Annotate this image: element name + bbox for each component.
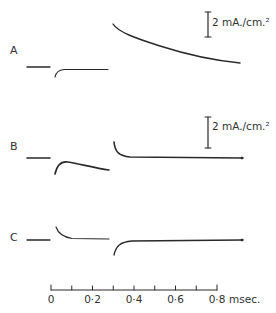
axis-tick-label: 0·8 (209, 293, 226, 305)
axis-tick-label: 0·4 (126, 293, 143, 305)
trace-c (27, 227, 243, 255)
time-axis (51, 285, 217, 290)
scale-bar-b-label: 2 mA./cm.² (212, 120, 270, 132)
axis-tick-label: 0·2 (84, 293, 101, 305)
axis-tick-label: 0 (48, 293, 55, 305)
panel-label-c: C (10, 231, 18, 244)
panel-label-b: B (10, 140, 18, 153)
panel-label-a: A (10, 44, 18, 57)
trace-b (27, 142, 243, 174)
figure-canvas (0, 0, 276, 313)
scale-bar-b (205, 117, 211, 148)
scale-bar-a (205, 12, 211, 37)
scale-bar-a-label: 2 mA./cm.² (212, 16, 270, 28)
axis-unit-label: msec. (229, 293, 260, 305)
axis-tick-label: 0·6 (167, 293, 184, 305)
